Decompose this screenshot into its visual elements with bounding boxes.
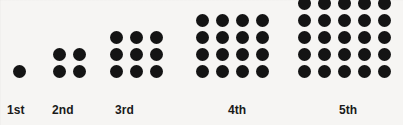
dot (358, 65, 371, 78)
dot (298, 48, 311, 61)
dot (196, 14, 209, 27)
dot (130, 65, 143, 78)
dot (236, 31, 249, 44)
dot (216, 48, 229, 61)
dot (110, 48, 123, 61)
dot (318, 48, 331, 61)
dot (256, 31, 269, 44)
dot (338, 0, 351, 10)
dot (318, 65, 331, 78)
dot (150, 31, 163, 44)
dot-group-5th (294, 0, 394, 80)
dot (53, 48, 66, 61)
dot (318, 14, 331, 27)
dot-group-3rd (106, 29, 166, 80)
dot (358, 0, 371, 10)
dot (196, 31, 209, 44)
dot (298, 31, 311, 44)
dot (216, 14, 229, 27)
dot (256, 14, 269, 27)
dot (378, 48, 391, 61)
dot (73, 48, 86, 61)
dot (338, 14, 351, 27)
dot (216, 31, 229, 44)
dot (318, 31, 331, 44)
dot (338, 65, 351, 78)
dot (298, 0, 311, 10)
dot (298, 14, 311, 27)
dot (358, 48, 371, 61)
dot-group-1st (9, 63, 29, 80)
dot (53, 65, 66, 78)
dot (358, 31, 371, 44)
dot (150, 65, 163, 78)
term-label-2nd: 2nd (52, 103, 74, 117)
square-number-dot-figure: 1st2nd3rd4th5th (0, 0, 403, 125)
dot (298, 65, 311, 78)
dot (236, 48, 249, 61)
dot (358, 14, 371, 27)
dot (73, 65, 86, 78)
dot (256, 65, 269, 78)
dot (236, 14, 249, 27)
dot (338, 31, 351, 44)
dot (110, 65, 123, 78)
dot (196, 48, 209, 61)
dot (256, 48, 269, 61)
term-label-3rd: 3rd (115, 103, 134, 117)
dot (110, 31, 123, 44)
dot (13, 65, 26, 78)
dot (130, 31, 143, 44)
dot (338, 48, 351, 61)
dot (378, 0, 391, 10)
dot (130, 48, 143, 61)
dot (150, 48, 163, 61)
dot (378, 31, 391, 44)
dot (196, 65, 209, 78)
dot (318, 0, 331, 10)
dot (236, 65, 249, 78)
term-label-1st: 1st (7, 103, 25, 117)
dot (378, 14, 391, 27)
dot (216, 65, 229, 78)
dot-group-2nd (49, 46, 89, 80)
dot (378, 65, 391, 78)
dot-group-4th (192, 12, 272, 80)
term-label-5th: 5th (339, 103, 357, 117)
term-label-4th: 4th (228, 103, 246, 117)
